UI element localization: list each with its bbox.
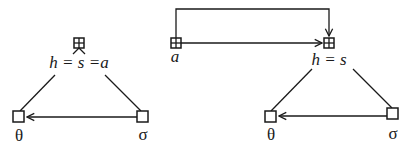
- right-theta-label: θ: [267, 125, 275, 144]
- square-node-icon: [13, 111, 24, 122]
- edge-top-to-sigma: [105, 75, 141, 111]
- right-hs-label: h = s: [311, 50, 346, 69]
- left-sigma-label: σ: [138, 125, 147, 144]
- grid-node-icon: [73, 38, 85, 54]
- arrow-a-loop-to-hs: [176, 9, 329, 38]
- square-node-icon: [387, 108, 398, 119]
- left-theta-label: θ: [15, 126, 23, 145]
- left-diagram: h = s =a θ σ: [13, 38, 148, 145]
- edge-top-to-theta: [20, 75, 55, 111]
- left-top-node-label: h = s =a: [49, 53, 108, 72]
- diagram-canvas: h = s =a θ σ a h = s: [0, 0, 411, 148]
- right-diagram: a h = s θ σ: [171, 9, 398, 144]
- edge-hs-to-sigma: [353, 69, 392, 108]
- edge-hs-to-theta: [271, 69, 312, 111]
- right-sigma-label: σ: [388, 124, 397, 143]
- square-node-icon: [137, 111, 148, 122]
- right-a-label: a: [171, 47, 180, 66]
- square-node-icon: [265, 111, 276, 122]
- grid-node-icon: [324, 38, 334, 48]
